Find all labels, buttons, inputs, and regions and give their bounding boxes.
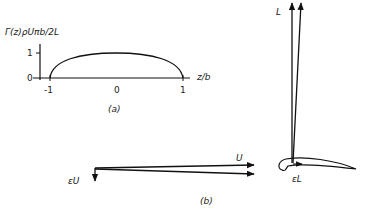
panel-b-velocity-triangle: U εU (b): [68, 153, 254, 206]
lift-label: L: [276, 7, 281, 17]
caption-a: (a): [108, 104, 121, 114]
airfoil-section: [279, 158, 356, 171]
elliptic-circulation-curve: [50, 53, 183, 78]
induced-drag-label: εL: [292, 174, 302, 184]
y-tick-label-0: 0: [27, 73, 33, 83]
x-tick-label-neg1: -1: [44, 85, 53, 95]
x-axis-label: z/b: [196, 72, 211, 82]
x-tick-label-0: 0: [114, 85, 120, 95]
caption-b: (b): [200, 196, 213, 206]
velocity-label-u: U: [236, 153, 243, 163]
freestream-velocity-arrow: [95, 165, 254, 168]
downwash-label: εU: [68, 176, 80, 186]
y-axis-label: Γ(z)ρUπb/2L: [5, 27, 59, 37]
resultant-velocity-arrow: [95, 169, 254, 174]
panel-b-airfoil-forces: L εL: [276, 3, 356, 184]
y-tick-label-1: 1: [27, 48, 33, 58]
panel-a-circulation-plot: Γ(z)ρUπb/2L 1 0 -1 0 1 z/b (a): [5, 27, 211, 114]
x-tick-label-1: 1: [180, 85, 186, 95]
lifting-line-diagram: Γ(z)ρUπb/2L 1 0 -1 0 1 z/b (a) U εU (b) …: [0, 0, 373, 215]
tilted-lift-arrow: [293, 3, 301, 163]
